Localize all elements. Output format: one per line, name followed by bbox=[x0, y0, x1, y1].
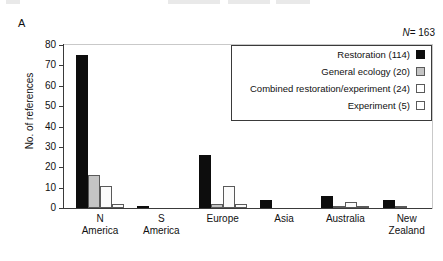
panel-letter: A bbox=[18, 18, 25, 29]
y-axis-tick-label: 20 bbox=[34, 162, 56, 172]
bar bbox=[199, 155, 211, 208]
legend-swatch-black bbox=[416, 50, 425, 59]
chart-figure: A No. of references 01020304050607080 NA… bbox=[0, 0, 443, 261]
top-artifact bbox=[6, 0, 20, 4]
y-axis-tick-label: 0 bbox=[34, 203, 56, 213]
y-axis-tick-label: 40 bbox=[34, 122, 56, 132]
bar bbox=[383, 200, 395, 208]
bar bbox=[235, 204, 247, 208]
bar bbox=[345, 202, 357, 208]
bar bbox=[112, 204, 124, 208]
bar bbox=[321, 196, 333, 208]
y-axis-tick-label: 80 bbox=[34, 40, 56, 50]
legend-swatch-white bbox=[416, 101, 425, 110]
x-axis-category-label-line: New bbox=[362, 213, 443, 225]
bar bbox=[211, 204, 223, 208]
x-axis-line bbox=[63, 208, 433, 209]
chart-legend: Restoration (114)General ecology (20)Com… bbox=[231, 45, 432, 121]
legend-item[interactable]: Restoration (114) bbox=[232, 46, 431, 63]
x-axis-category-label-line: Zealand bbox=[362, 225, 443, 237]
top-artifact bbox=[276, 0, 310, 4]
y-axis-tick bbox=[59, 208, 64, 209]
legend-item[interactable]: Combined restoration/experiment (24) bbox=[232, 80, 431, 97]
y-axis-tick-label: 30 bbox=[34, 142, 56, 152]
top-artifact bbox=[168, 0, 220, 4]
y-axis-tick-label: 50 bbox=[34, 101, 56, 111]
y-axis-tick-label: 10 bbox=[34, 183, 56, 193]
legend-item-label: Restoration (114) bbox=[337, 50, 410, 60]
x-axis-category-label-line: America bbox=[116, 225, 206, 237]
legend-swatch-gray bbox=[416, 67, 425, 76]
bar bbox=[88, 175, 100, 208]
legend-item[interactable]: General ecology (20) bbox=[232, 63, 431, 80]
legend-item[interactable]: Experiment (5) bbox=[232, 97, 431, 114]
sample-size-symbol: N bbox=[402, 27, 409, 38]
bar bbox=[333, 206, 345, 208]
sample-size-annotation: N= 163 bbox=[402, 28, 435, 38]
legend-item-label: General ecology (20) bbox=[321, 67, 410, 77]
y-axis-tick-label: 70 bbox=[34, 60, 56, 70]
bar bbox=[137, 206, 149, 208]
bar bbox=[395, 206, 407, 208]
bar bbox=[100, 186, 112, 208]
sample-size-value: = 163 bbox=[410, 27, 435, 38]
bar bbox=[76, 55, 88, 208]
legend-item-label: Combined restoration/experiment (24) bbox=[250, 84, 410, 94]
x-axis-category-label: NewZealand bbox=[362, 213, 443, 237]
bar bbox=[223, 186, 235, 208]
top-artifact bbox=[228, 0, 270, 4]
bar bbox=[260, 200, 272, 208]
plot-frame-right bbox=[432, 45, 433, 209]
bar bbox=[357, 206, 369, 208]
legend-item-label: Experiment (5) bbox=[348, 101, 410, 111]
y-axis-tick-label: 60 bbox=[34, 81, 56, 91]
legend-swatch-white bbox=[416, 84, 425, 93]
